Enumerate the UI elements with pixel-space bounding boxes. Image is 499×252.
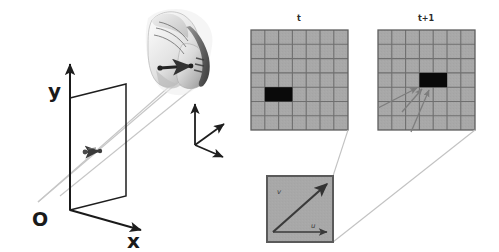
axis-x-label: x (127, 229, 140, 252)
axis-y-label: y (48, 79, 61, 103)
grid-panel-t (251, 30, 348, 130)
grid-panel-t-plus-1 (378, 30, 475, 130)
grid-caption-t: t (297, 14, 301, 23)
origin-label: O (32, 208, 48, 230)
motion-projection-figure: y x O (0, 0, 499, 252)
grid-caption-t-plus-1: t+1 (418, 14, 435, 23)
motion-block-t-plus-1 (419, 73, 447, 87)
u-component-label: u (311, 222, 316, 230)
motion-block-t (265, 87, 293, 101)
figure-root: y x O (0, 0, 499, 252)
